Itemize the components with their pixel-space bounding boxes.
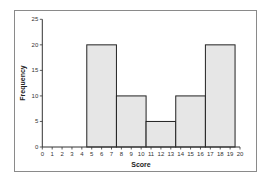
x-tick-label: 13 xyxy=(167,151,174,157)
x-tick-label: 20 xyxy=(237,151,244,157)
y-axis-title: Frequency xyxy=(19,65,27,101)
x-tick-label: 5 xyxy=(90,151,94,157)
histogram-bar-8-10 xyxy=(116,96,146,147)
histogram-bar-17-19 xyxy=(205,45,235,147)
bars-group xyxy=(87,45,235,147)
histogram-bar-11-13 xyxy=(146,121,176,147)
x-tick-label: 15 xyxy=(187,151,194,157)
x-tick-label: 7 xyxy=(110,151,114,157)
x-tick-label: 1 xyxy=(51,151,55,157)
y-tick-label: 20 xyxy=(32,42,39,48)
x-axis-title: Score xyxy=(131,161,151,168)
x-tick-label: 0 xyxy=(41,151,45,157)
x-tick-label: 9 xyxy=(130,151,134,157)
x-tick-label: 12 xyxy=(158,151,165,157)
x-tick-label: 8 xyxy=(120,151,124,157)
y-tick-label: 5 xyxy=(35,118,39,124)
x-tick-label: 11 xyxy=(148,151,155,157)
x-tick-label: 6 xyxy=(100,151,104,157)
x-tick-label: 10 xyxy=(138,151,145,157)
x-tick-label: 4 xyxy=(80,151,84,157)
y-tick-label: 0 xyxy=(35,144,39,150)
y-tick-label: 10 xyxy=(32,93,39,99)
x-tick-label: 19 xyxy=(227,151,234,157)
x-tick-label: 3 xyxy=(70,151,74,157)
x-tick-label: 2 xyxy=(60,151,64,157)
y-tick-label: 25 xyxy=(32,16,39,22)
x-tick-label: 16 xyxy=(197,151,204,157)
y-tick-label: 15 xyxy=(32,67,39,73)
histogram-bar-14-16 xyxy=(176,96,206,147)
x-tick-label: 14 xyxy=(177,151,184,157)
x-tick-label: 17 xyxy=(207,151,214,157)
histogram-chart: 0123456789101112131415161718192005101520… xyxy=(0,0,267,185)
x-tick-label: 18 xyxy=(217,151,224,157)
histogram-bar-5-7 xyxy=(87,45,117,147)
